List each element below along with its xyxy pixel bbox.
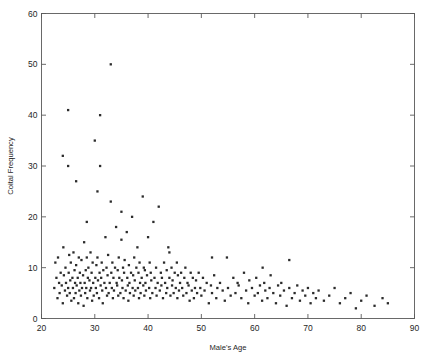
data-point	[194, 287, 196, 289]
data-point	[118, 256, 120, 258]
data-point	[93, 294, 95, 296]
data-point	[123, 272, 125, 274]
data-point	[136, 246, 138, 248]
data-point	[138, 261, 140, 263]
data-point	[77, 277, 79, 279]
data-point	[134, 279, 136, 281]
plot-frame	[42, 14, 415, 319]
data-point	[128, 264, 130, 266]
data-point	[76, 284, 78, 286]
data-point	[210, 284, 212, 286]
data-point	[288, 259, 290, 261]
data-point	[94, 277, 96, 279]
data-point	[291, 297, 293, 299]
data-point	[206, 282, 208, 284]
x-tick-label: 90	[410, 323, 420, 333]
data-point	[55, 277, 57, 279]
data-point	[169, 294, 171, 296]
data-point	[158, 206, 160, 208]
data-point	[98, 297, 100, 299]
data-point	[339, 302, 341, 304]
data-point	[166, 269, 168, 271]
data-point	[160, 272, 162, 274]
data-point	[85, 269, 87, 271]
data-point	[89, 251, 91, 253]
data-point	[62, 155, 64, 157]
data-point	[86, 297, 88, 299]
page-caption	[0, 352, 429, 363]
data-point	[247, 302, 249, 304]
data-point	[149, 297, 151, 299]
data-point	[196, 292, 198, 294]
data-point	[103, 282, 105, 284]
data-point	[101, 261, 103, 263]
data-point	[192, 277, 194, 279]
data-point	[105, 287, 107, 289]
data-point	[344, 297, 346, 299]
data-point	[309, 302, 311, 304]
data-point	[107, 254, 109, 256]
data-point	[195, 279, 197, 281]
data-point	[125, 289, 127, 291]
data-point	[166, 287, 168, 289]
data-point	[92, 261, 94, 263]
data-point	[56, 297, 58, 299]
data-point	[154, 287, 156, 289]
data-point	[131, 287, 133, 289]
data-point	[190, 272, 192, 274]
data-point	[170, 267, 172, 269]
data-point	[360, 300, 362, 302]
data-point	[57, 256, 59, 258]
data-point	[111, 261, 113, 263]
data-point	[75, 264, 77, 266]
data-point	[96, 292, 98, 294]
data-point	[80, 259, 82, 261]
data-point	[272, 292, 274, 294]
data-point	[142, 195, 144, 197]
data-point	[58, 292, 60, 294]
data-point	[266, 297, 268, 299]
data-point	[118, 277, 120, 279]
data-point	[185, 292, 187, 294]
data-point	[219, 282, 221, 284]
data-point	[102, 302, 104, 304]
data-point	[71, 277, 73, 279]
data-point	[236, 282, 238, 284]
data-point	[104, 236, 106, 238]
data-point	[131, 216, 133, 218]
data-point	[58, 282, 60, 284]
data-point	[95, 264, 97, 266]
data-point	[137, 287, 139, 289]
data-point	[198, 272, 200, 274]
data-point	[257, 292, 259, 294]
data-point	[139, 282, 141, 284]
data-point	[147, 236, 149, 238]
data-point	[120, 211, 122, 213]
data-point	[87, 267, 89, 269]
data-point	[148, 287, 150, 289]
data-point	[53, 287, 55, 289]
data-point	[128, 282, 130, 284]
data-point	[182, 294, 184, 296]
data-point	[268, 287, 270, 289]
data-point	[307, 287, 309, 289]
data-point	[150, 279, 152, 281]
data-point	[155, 267, 157, 269]
data-point	[365, 294, 367, 296]
data-point	[234, 292, 236, 294]
x-tick-label: 20	[37, 323, 47, 333]
data-point	[110, 63, 112, 65]
data-point	[98, 272, 100, 274]
data-point	[121, 287, 123, 289]
data-point	[160, 284, 162, 286]
data-point	[106, 294, 108, 296]
data-point	[165, 292, 167, 294]
y-tick-label: 60	[28, 9, 38, 19]
data-point	[69, 279, 71, 281]
data-point	[168, 277, 170, 279]
y-tick-label: 20	[28, 212, 38, 222]
data-point	[183, 277, 185, 279]
data-point	[65, 282, 67, 284]
data-point	[75, 180, 77, 182]
y-tick-label: 50	[28, 59, 38, 69]
